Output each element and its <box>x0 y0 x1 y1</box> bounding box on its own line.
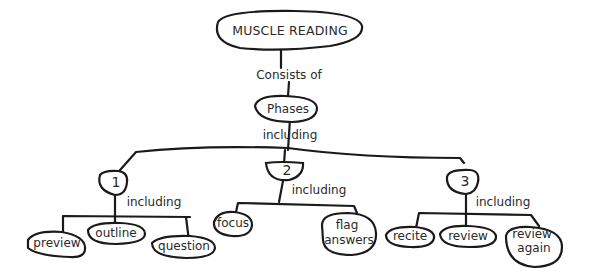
phase-1-label: 1 <box>112 174 121 190</box>
phase-2-label: 2 <box>283 162 292 178</box>
review-again-label: review again <box>512 227 556 255</box>
edge-including-3: including <box>476 195 531 209</box>
phase-node-3: 3 <box>447 170 478 194</box>
review-again-line2: again <box>517 241 550 255</box>
phases-node: Phases <box>255 96 317 122</box>
node-review: review <box>440 226 496 247</box>
edge-consists-of: Consists of <box>256 68 322 82</box>
node-recite: recite <box>386 227 434 247</box>
flag-answers-text: flag <box>336 218 359 232</box>
edge-including-1: including <box>127 195 182 209</box>
concept-map: MUSCLE READING Consists of Phases includ… <box>0 0 594 280</box>
phase-node-1: 1 <box>99 171 127 195</box>
node-flag-answers: flag answers <box>322 213 376 255</box>
phase-node-2: 2 <box>266 162 303 180</box>
node-focus: focus <box>214 212 252 236</box>
phase-3-label: 3 <box>461 173 470 189</box>
review-again-line1: review <box>512 227 552 241</box>
preview-label: preview <box>33 236 80 250</box>
edge-including-2: including <box>292 183 347 197</box>
recite-label: recite <box>393 229 427 243</box>
phases-label: Phases <box>267 102 309 116</box>
edge-including-main: including <box>263 128 318 142</box>
focus-label: focus <box>217 216 249 230</box>
outline-label: outline <box>95 226 136 240</box>
root-label: MUSCLE READING <box>232 23 348 38</box>
node-question: question <box>152 236 215 258</box>
node-outline: outline <box>88 223 145 244</box>
question-label: question <box>158 239 210 253</box>
flag-answers-line2: answers <box>324 233 374 247</box>
node-review-again: review again <box>506 227 562 267</box>
review-label: review <box>448 229 488 243</box>
root-node: MUSCLE READING <box>217 11 362 50</box>
node-preview: preview <box>28 232 85 257</box>
